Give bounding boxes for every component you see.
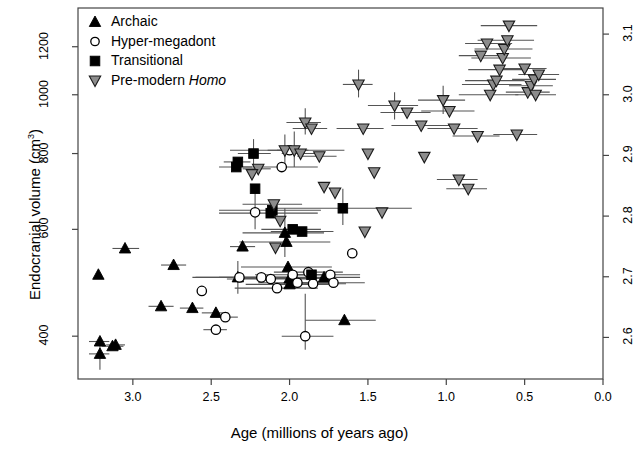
data-point	[293, 278, 302, 287]
data-point	[353, 80, 364, 91]
y-axis-tick-label-right: 2.7	[621, 261, 635, 291]
data-point	[119, 242, 130, 253]
data-point	[338, 203, 348, 213]
data-point	[266, 274, 275, 283]
legend-marker-pre-modern-homo	[89, 76, 100, 87]
data-point	[94, 348, 105, 359]
data-point	[339, 314, 350, 325]
data-point	[530, 90, 541, 101]
data-point	[475, 51, 486, 62]
data-point	[235, 273, 244, 282]
data-point	[358, 124, 369, 135]
data-point	[314, 152, 325, 163]
data-point	[270, 243, 281, 254]
data-point	[416, 121, 427, 132]
y-axis-tick-label-left: 800	[37, 133, 51, 173]
data-point	[306, 124, 317, 135]
data-point	[295, 149, 306, 160]
y-axis-tick-label-right: 3.1	[621, 18, 635, 48]
x-axis-tick-label: 0.5	[511, 390, 539, 404]
data-point	[168, 259, 179, 270]
data-point	[329, 278, 338, 287]
y-axis-tick-label-left: 1000	[37, 74, 51, 114]
legend-label-pre-modern-homo: Pre-modern Homo	[111, 72, 226, 88]
data-point	[210, 307, 221, 318]
x-axis-tick-label: 3.0	[119, 390, 147, 404]
data-point	[231, 162, 241, 172]
series-archaic	[93, 227, 350, 359]
data-point	[368, 168, 379, 179]
data-point	[463, 184, 474, 195]
data-point	[348, 249, 357, 258]
data-point	[93, 269, 104, 280]
legend-label-archaic: Archaic	[111, 13, 158, 29]
x-axis-tick-label: 2.0	[276, 390, 304, 404]
data-point	[155, 300, 166, 311]
data-point	[437, 96, 448, 107]
data-point	[419, 152, 430, 163]
data-point	[307, 270, 317, 280]
data-point	[197, 286, 206, 295]
data-point	[221, 312, 230, 321]
data-point	[288, 225, 298, 235]
data-point	[444, 107, 455, 118]
y-axis-tick-label-left: 1200	[37, 26, 51, 66]
data-point	[472, 132, 483, 143]
legend-marker-archaic	[89, 16, 100, 27]
y-axis-tick-label-right: 2.9	[621, 139, 635, 169]
series-pre-modern-homo	[246, 21, 544, 253]
data-point	[401, 108, 412, 119]
x-axis-label: Age (millions of years ago)	[0, 424, 639, 441]
data-point	[272, 283, 281, 292]
data-point	[376, 208, 387, 219]
y-axis-tick-label-right: 2.8	[621, 200, 635, 230]
data-point	[494, 65, 505, 76]
y-axis-label-superscript: 3	[26, 134, 36, 139]
x-axis-tick-label: 1.0	[432, 390, 460, 404]
data-point	[187, 302, 198, 313]
data-point	[250, 208, 259, 217]
data-point	[329, 188, 340, 199]
scatter-plot	[0, 0, 639, 455]
data-point	[448, 124, 459, 135]
data-point	[301, 332, 310, 341]
data-point	[484, 90, 495, 101]
legend-label-hyper-megadont: Hyper-megadont	[111, 33, 215, 49]
legend-label-transitional: Transitional	[111, 52, 183, 68]
data-point	[389, 101, 400, 112]
data-point	[511, 130, 522, 141]
y-axis-tick-label-right: 2.6	[621, 321, 635, 351]
data-point	[94, 336, 105, 347]
data-point	[277, 162, 286, 171]
data-point	[308, 279, 317, 288]
data-point	[250, 184, 260, 194]
x-axis-tick-label: 2.5	[197, 390, 225, 404]
y-axis-tick-label-right: 3.0	[621, 79, 635, 109]
data-point	[318, 182, 329, 193]
data-point	[297, 227, 307, 237]
data-point	[359, 227, 370, 238]
legend-marker-hyper-megadont	[91, 37, 99, 45]
y-axis-tick-label-left: 600	[37, 208, 51, 248]
y-axis-tick-label-left: 400	[37, 315, 51, 355]
data-point	[497, 53, 508, 64]
data-point	[246, 170, 257, 181]
data-point	[249, 149, 259, 159]
data-point	[274, 216, 285, 227]
chart-figure: Endocranial volume (cm3) Age (millions o…	[0, 0, 639, 455]
data-point	[257, 273, 266, 282]
data-point	[481, 39, 492, 50]
data-point	[211, 325, 220, 334]
data-point	[503, 21, 514, 32]
data-point	[362, 149, 373, 160]
x-axis-tick-label: 0.0	[589, 390, 617, 404]
x-axis-tick-label: 1.5	[354, 390, 382, 404]
legend-marker-transitional	[90, 56, 100, 66]
